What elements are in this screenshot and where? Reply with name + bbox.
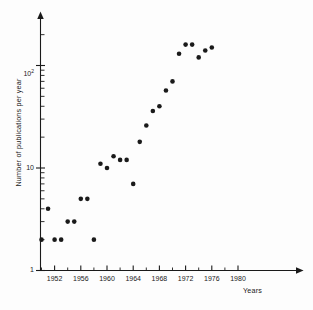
data-point: [79, 197, 84, 202]
data-point: [65, 219, 70, 224]
data-point: [46, 206, 51, 211]
data-point: [203, 48, 208, 53]
plot-canvas: [0, 0, 313, 310]
data-point: [177, 52, 182, 57]
x-axis-ticks: [42, 266, 239, 271]
data-point: [170, 79, 175, 84]
data-point: [131, 182, 136, 187]
data-point: [196, 55, 201, 60]
data-point: [39, 237, 44, 242]
data-point: [59, 237, 64, 242]
data-point: [118, 158, 123, 163]
data-point: [124, 158, 129, 163]
data-point: [151, 109, 156, 114]
y-tick-label: 102: [6, 68, 34, 77]
y-axis-title: Number of publications per year: [14, 68, 23, 198]
data-point: [183, 42, 188, 47]
data-point: [144, 123, 149, 128]
data-point: [190, 42, 195, 47]
x-tick-label: 1980: [223, 275, 253, 282]
data-point: [52, 237, 57, 242]
y-tick-label: 1: [6, 266, 34, 273]
y-tick-label: 10: [6, 164, 34, 171]
x-axis-title: Years: [243, 286, 262, 295]
data-point-group: [39, 42, 214, 242]
data-point: [111, 154, 116, 159]
data-point: [92, 237, 97, 242]
data-point: [137, 140, 142, 145]
data-point: [157, 104, 162, 109]
data-point: [164, 88, 169, 93]
data-point: [105, 166, 110, 171]
data-point: [98, 161, 103, 166]
scatter-plot-figure: Number of publications per year Years 11…: [0, 0, 313, 310]
data-point: [72, 219, 77, 224]
data-point: [85, 197, 90, 202]
data-point: [210, 45, 215, 50]
